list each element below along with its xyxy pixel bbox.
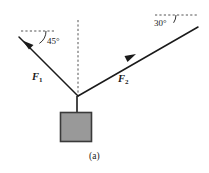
angle-30-arc <box>174 15 176 23</box>
force-1-subscript: 1 <box>39 76 43 84</box>
angle-45-arc <box>39 31 46 43</box>
figure-caption: (a) <box>89 152 100 162</box>
angle-45-label: 45° <box>47 37 60 46</box>
suspended-block <box>61 113 92 142</box>
force-1-arrowhead <box>23 41 34 50</box>
force-1-label: F1 <box>32 72 43 83</box>
force-1-symbol: F <box>32 71 39 82</box>
force-2-label: F2 <box>118 74 129 85</box>
angle-30-label: 30° <box>154 19 167 28</box>
force-2-arrowhead <box>125 54 137 62</box>
force-2-symbol: F <box>118 73 125 84</box>
figure-canvas <box>0 0 209 173</box>
physics-figure: 45° 30° F1 F2 (a) <box>0 0 209 173</box>
force-2-cable-line <box>78 27 198 96</box>
force-2-subscript: 2 <box>125 78 129 86</box>
